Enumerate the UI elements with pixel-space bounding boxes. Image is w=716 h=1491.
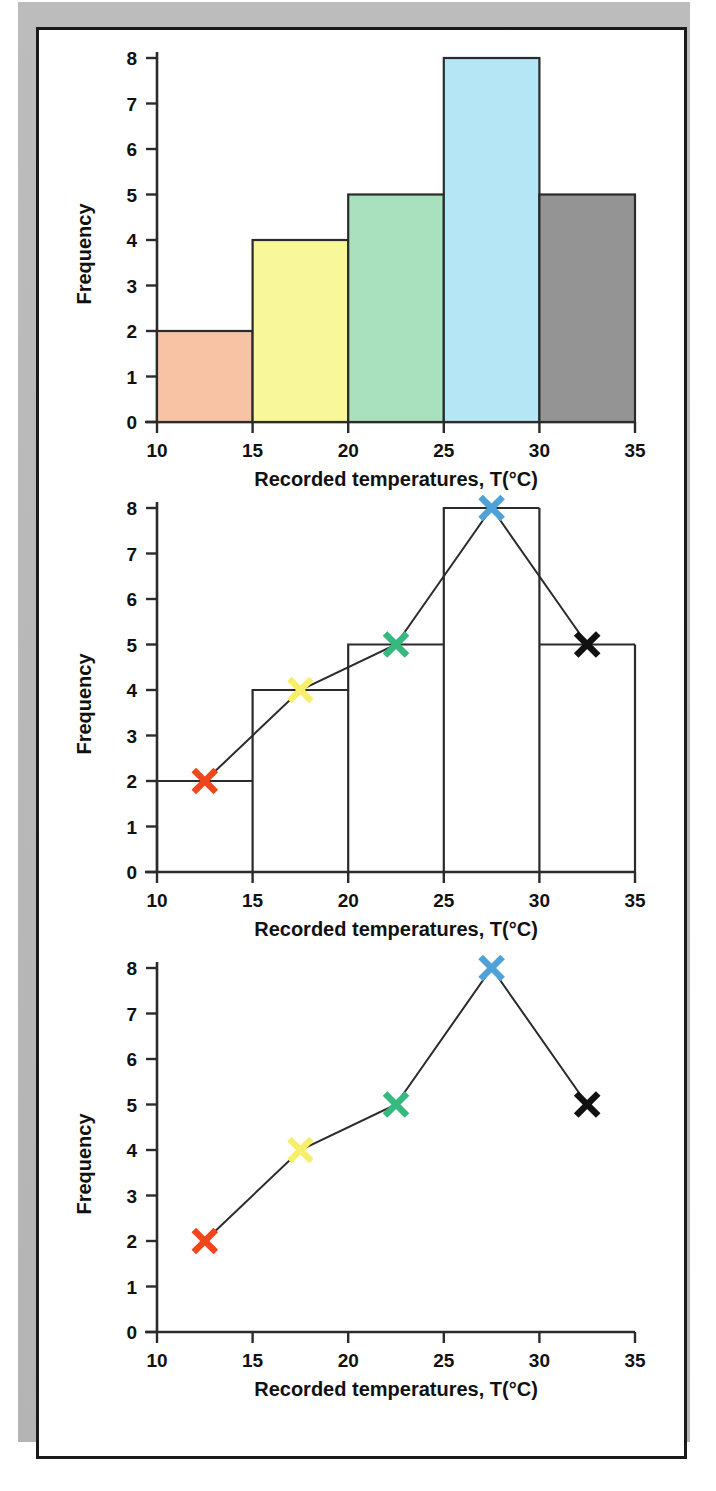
y-tick-label-5: 5 bbox=[126, 635, 137, 656]
chart-frequency-polygon: 012345678101520253035Recorded temperatur… bbox=[39, 940, 690, 1410]
y-tick-label-8: 8 bbox=[126, 48, 137, 69]
y-tick-label-6: 6 bbox=[126, 139, 137, 160]
y-tick-label-5: 5 bbox=[126, 1095, 137, 1116]
x-tick-label-35: 35 bbox=[624, 1350, 646, 1371]
y-tick-label-3: 3 bbox=[126, 276, 137, 297]
y-tick-label-0: 0 bbox=[126, 412, 137, 433]
y-tick-label-3: 3 bbox=[126, 726, 137, 747]
histogram-coloured-svg: 012345678101520253035Recorded temperatur… bbox=[39, 30, 690, 500]
y-tick-label-2: 2 bbox=[126, 321, 137, 342]
y-tick-label-7: 7 bbox=[126, 94, 137, 115]
x-tick-label-15: 15 bbox=[242, 890, 264, 911]
x-tick-label-25: 25 bbox=[433, 440, 455, 461]
x-tick-label-35: 35 bbox=[624, 440, 646, 461]
histogram-bar-10-15 bbox=[157, 331, 253, 422]
x-tick-label-20: 20 bbox=[338, 890, 359, 911]
x-axis-title: Recorded temperatures, T(°C) bbox=[254, 1378, 538, 1400]
histogram-bar-25-30 bbox=[444, 58, 540, 422]
y-axis-title: Frequency bbox=[73, 1113, 95, 1215]
x-tick-label-25: 25 bbox=[433, 1350, 455, 1371]
y-axis-title: Frequency bbox=[73, 203, 95, 305]
frequency-polygon-svg: 012345678101520253035Recorded temperatur… bbox=[39, 940, 690, 1410]
histogram-outline bbox=[157, 508, 635, 872]
y-axis-title: Frequency bbox=[73, 653, 95, 755]
y-tick-label-1: 1 bbox=[126, 367, 137, 388]
y-tick-label-0: 0 bbox=[126, 862, 137, 883]
x-tick-label-20: 20 bbox=[338, 440, 359, 461]
x-tick-label-20: 20 bbox=[338, 1350, 359, 1371]
y-tick-label-8: 8 bbox=[126, 498, 137, 519]
data-point-marker-2 bbox=[385, 1094, 407, 1116]
x-axis-title: Recorded temperatures, T(°C) bbox=[254, 918, 538, 940]
y-tick-label-1: 1 bbox=[126, 817, 137, 838]
chart-histogram-with-polygon: 012345678101520253035Recorded temperatur… bbox=[39, 480, 690, 950]
data-point-marker-3 bbox=[481, 957, 503, 979]
y-tick-label-3: 3 bbox=[126, 1186, 137, 1207]
y-tick-label-6: 6 bbox=[126, 1049, 137, 1070]
y-tick-label-7: 7 bbox=[126, 1004, 137, 1025]
x-tick-label-10: 10 bbox=[146, 1350, 167, 1371]
histogram-with-polygon-svg: 012345678101520253035Recorded temperatur… bbox=[39, 480, 690, 950]
x-tick-label-30: 30 bbox=[529, 890, 550, 911]
data-point-marker-1 bbox=[289, 1139, 311, 1161]
x-tick-label-10: 10 bbox=[146, 890, 167, 911]
histogram-bar-20-25 bbox=[348, 195, 444, 423]
y-tick-label-1: 1 bbox=[126, 1277, 137, 1298]
x-tick-label-30: 30 bbox=[529, 440, 550, 461]
histogram-bar-15-20 bbox=[253, 240, 349, 422]
data-point-marker-0 bbox=[194, 1230, 216, 1252]
x-tick-label-15: 15 bbox=[242, 440, 264, 461]
y-tick-label-5: 5 bbox=[126, 185, 137, 206]
x-tick-label-35: 35 bbox=[624, 890, 646, 911]
y-tick-label-7: 7 bbox=[126, 544, 137, 565]
y-tick-label-0: 0 bbox=[126, 1322, 137, 1343]
y-tick-label-2: 2 bbox=[126, 1231, 137, 1252]
histogram-bar-30-35 bbox=[539, 195, 635, 423]
y-tick-label-2: 2 bbox=[126, 771, 137, 792]
chart-histogram-coloured: 012345678101520253035Recorded temperatur… bbox=[39, 30, 690, 500]
data-point-marker-4 bbox=[576, 1094, 598, 1116]
x-tick-label-15: 15 bbox=[242, 1350, 264, 1371]
y-tick-label-4: 4 bbox=[126, 1140, 137, 1161]
y-tick-label-6: 6 bbox=[126, 589, 137, 610]
y-tick-label-4: 4 bbox=[126, 680, 137, 701]
y-tick-label-8: 8 bbox=[126, 958, 137, 979]
y-tick-label-4: 4 bbox=[126, 230, 137, 251]
page-frame: 012345678101520253035Recorded temperatur… bbox=[0, 0, 716, 1491]
x-tick-label-25: 25 bbox=[433, 890, 455, 911]
x-tick-label-30: 30 bbox=[529, 1350, 550, 1371]
page-sheet: 012345678101520253035Recorded temperatur… bbox=[36, 27, 687, 1459]
x-tick-label-10: 10 bbox=[146, 440, 167, 461]
